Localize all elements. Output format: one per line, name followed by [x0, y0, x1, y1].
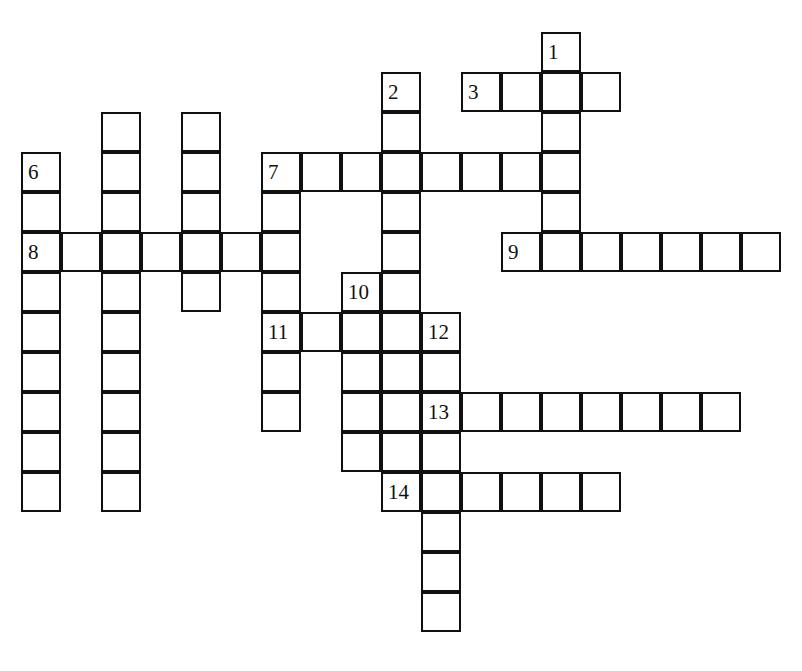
crossword-cell[interactable]: [541, 112, 581, 152]
crossword-cell[interactable]: [301, 152, 341, 192]
crossword-cell[interactable]: [381, 392, 421, 432]
crossword-cell[interactable]: [21, 352, 61, 392]
crossword-cell[interactable]: [541, 392, 581, 432]
crossword-cell[interactable]: [221, 232, 261, 272]
crossword-cell[interactable]: [381, 352, 421, 392]
crossword-cell[interactable]: [101, 152, 141, 192]
crossword-cell[interactable]: [181, 112, 221, 152]
crossword-cell[interactable]: [181, 152, 221, 192]
crossword-cell[interactable]: [741, 232, 781, 272]
crossword-cell[interactable]: [341, 152, 381, 192]
crossword-cell[interactable]: [501, 392, 541, 432]
crossword-cell[interactable]: [421, 152, 461, 192]
crossword-cell[interactable]: [21, 272, 61, 312]
crossword-cell[interactable]: [381, 472, 421, 512]
crossword-cell[interactable]: [381, 152, 421, 192]
crossword-cell[interactable]: [21, 312, 61, 352]
crossword-cell[interactable]: [421, 592, 461, 632]
crossword-cell[interactable]: [101, 112, 141, 152]
crossword-cell[interactable]: [21, 432, 61, 472]
crossword-cell[interactable]: [101, 192, 141, 232]
crossword-cell[interactable]: [101, 432, 141, 472]
crossword-cell[interactable]: [101, 272, 141, 312]
crossword-cell[interactable]: [661, 232, 701, 272]
crossword-cell[interactable]: [301, 312, 341, 352]
crossword-cell[interactable]: [421, 512, 461, 552]
crossword-cell[interactable]: [701, 232, 741, 272]
crossword-cell[interactable]: [501, 232, 541, 272]
crossword-cell[interactable]: [101, 392, 141, 432]
crossword-cell[interactable]: [181, 192, 221, 232]
crossword-cell[interactable]: [541, 232, 581, 272]
crossword-cell[interactable]: [21, 472, 61, 512]
crossword-cell[interactable]: [21, 232, 61, 272]
crossword-cell[interactable]: [581, 392, 621, 432]
crossword-cell[interactable]: [261, 352, 301, 392]
crossword-cell[interactable]: [341, 392, 381, 432]
crossword-cell[interactable]: [101, 472, 141, 512]
crossword-cell[interactable]: [261, 152, 301, 192]
crossword-cell[interactable]: [21, 392, 61, 432]
crossword-cell[interactable]: [421, 392, 461, 432]
crossword-cell[interactable]: [261, 192, 301, 232]
crossword-cell[interactable]: [21, 152, 61, 192]
crossword-cell[interactable]: [341, 272, 381, 312]
crossword-cell[interactable]: [581, 232, 621, 272]
crossword-cell[interactable]: [621, 392, 661, 432]
crossword-cell[interactable]: [421, 472, 461, 512]
crossword-cell[interactable]: [421, 552, 461, 592]
crossword-cell[interactable]: [261, 232, 301, 272]
crossword-cell[interactable]: [261, 392, 301, 432]
crossword-cell[interactable]: [541, 472, 581, 512]
crossword-cell[interactable]: [581, 472, 621, 512]
crossword-cell[interactable]: [541, 192, 581, 232]
crossword-cell[interactable]: [501, 472, 541, 512]
crossword-cell[interactable]: [341, 352, 381, 392]
crossword-cell[interactable]: [341, 432, 381, 472]
crossword-cell[interactable]: [461, 152, 501, 192]
crossword-cell[interactable]: [421, 432, 461, 472]
crossword-grid[interactable]: 12367891011121314: [0, 0, 802, 671]
crossword-cell[interactable]: [501, 72, 541, 112]
crossword-cell[interactable]: [341, 312, 381, 352]
crossword-cell[interactable]: [181, 272, 221, 312]
crossword-cell[interactable]: [541, 152, 581, 192]
crossword-cell[interactable]: [21, 192, 61, 232]
crossword-cell[interactable]: [101, 232, 141, 272]
crossword-cell[interactable]: [381, 232, 421, 272]
crossword-cell[interactable]: [61, 232, 101, 272]
crossword-cell[interactable]: [541, 72, 581, 112]
crossword-cell[interactable]: [461, 472, 501, 512]
crossword-cell[interactable]: [381, 112, 421, 152]
crossword-cell[interactable]: [381, 192, 421, 232]
crossword-cell[interactable]: [261, 272, 301, 312]
crossword-cell[interactable]: [141, 232, 181, 272]
crossword-cell[interactable]: [101, 352, 141, 392]
crossword-cell[interactable]: [701, 392, 741, 432]
crossword-cell[interactable]: [461, 392, 501, 432]
crossword-cell[interactable]: [261, 312, 301, 352]
crossword-cell[interactable]: [501, 152, 541, 192]
crossword-cell[interactable]: [101, 312, 141, 352]
crossword-cell[interactable]: [541, 32, 581, 72]
crossword-cell[interactable]: [181, 232, 221, 272]
crossword-cell[interactable]: [381, 272, 421, 312]
crossword-cell[interactable]: [421, 312, 461, 352]
crossword-cell[interactable]: [381, 72, 421, 112]
crossword-cell[interactable]: [461, 72, 501, 112]
crossword-cell[interactable]: [661, 392, 701, 432]
crossword-cell[interactable]: [581, 72, 621, 112]
crossword-cell[interactable]: [621, 232, 661, 272]
crossword-cell[interactable]: [421, 352, 461, 392]
crossword-cell[interactable]: [381, 432, 421, 472]
crossword-cell[interactable]: [381, 312, 421, 352]
